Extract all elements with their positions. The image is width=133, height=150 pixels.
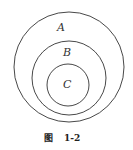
- caption-prefix: 图: [44, 133, 53, 143]
- label-c: C: [63, 78, 72, 91]
- circle-a: [14, 12, 124, 122]
- label-a: A: [56, 21, 65, 34]
- nested-circles-diagram: A B C 图 1-2: [0, 0, 133, 150]
- caption-number: 1-2: [64, 133, 80, 143]
- label-b: B: [62, 46, 71, 59]
